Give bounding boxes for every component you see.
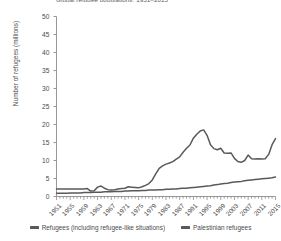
series-line-0 xyxy=(57,130,276,191)
y-tick-label: 30 xyxy=(34,85,50,92)
chart-legend: Refugees (including refugee-like situati… xyxy=(0,224,281,231)
y-tick-label: 25 xyxy=(34,103,50,110)
y-tick-label: 35 xyxy=(34,67,50,74)
refugee-population-chart: Global refugee populations, 1951–2015 Nu… xyxy=(0,0,281,241)
y-tick-label: 50 xyxy=(34,13,50,20)
y-tick-label: 0 xyxy=(34,193,50,200)
y-tick-label: 40 xyxy=(34,49,50,56)
legend-label-palestinian: Palestinian refugees xyxy=(193,224,251,231)
y-tick-label: 20 xyxy=(34,121,50,128)
y-tick-label: 15 xyxy=(34,139,50,146)
legend-line-swatch-refugees xyxy=(30,226,39,228)
legend-line-swatch-palestinian xyxy=(181,226,190,228)
legend-item-palestinian-refugees: Palestinian refugees xyxy=(181,224,251,231)
y-tick-label: 5 xyxy=(34,175,50,182)
y-tick-label: 45 xyxy=(34,31,50,38)
y-tick-label: 10 xyxy=(34,157,50,164)
legend-item-refugees: Refugees (including refugee-like situati… xyxy=(30,224,165,231)
legend-label-refugees: Refugees (including refugee-like situati… xyxy=(42,224,165,231)
